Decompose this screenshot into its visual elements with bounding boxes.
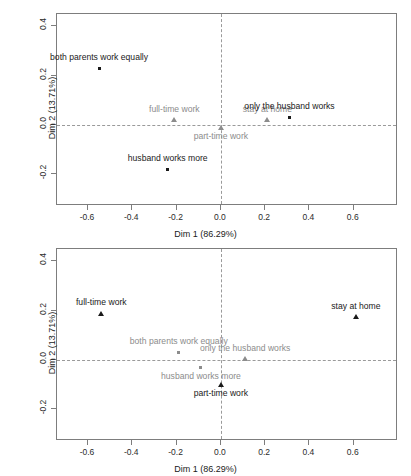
x-axis-tick-label: 0.0 bbox=[214, 447, 226, 457]
x-axis-tick-label: -0.4 bbox=[124, 447, 139, 457]
data-point-label: part-time work bbox=[194, 132, 248, 141]
plot-panel-bottom: full-time workstay at homeboth parents w… bbox=[56, 248, 397, 440]
data-point-label: stay at home bbox=[331, 302, 380, 311]
data-point-label: both parents work equally bbox=[50, 53, 148, 62]
x-axis-tick bbox=[220, 440, 221, 445]
y-axis-tick-label: 0.4 bbox=[38, 13, 48, 35]
triangle-marker-icon bbox=[264, 117, 270, 122]
x-axis-tick bbox=[264, 440, 265, 445]
data-point-label: husband works more bbox=[128, 154, 208, 163]
square-marker-icon bbox=[288, 116, 291, 119]
x-axis-tick bbox=[308, 440, 309, 445]
triangle-marker-icon bbox=[98, 311, 104, 316]
x-axis-tick-label: -0.4 bbox=[124, 212, 139, 222]
data-point-label: full-time work bbox=[76, 298, 127, 307]
x-axis-tick-label: 0.6 bbox=[347, 447, 359, 457]
x-axis-tick bbox=[87, 205, 88, 210]
zero-line-horizontal bbox=[57, 125, 396, 126]
square-marker-icon bbox=[199, 366, 202, 369]
y-axis-tick bbox=[51, 173, 56, 174]
x-axis-tick bbox=[87, 440, 88, 445]
data-point-label: only the husband works bbox=[200, 344, 290, 353]
triangle-marker-icon bbox=[171, 117, 177, 122]
y-axis-title-bottom: Dim 2 (13.71%) bbox=[47, 293, 57, 393]
x-axis-tick bbox=[131, 440, 132, 445]
x-axis-tick bbox=[353, 205, 354, 210]
x-axis-tick bbox=[131, 205, 132, 210]
triangle-marker-icon bbox=[353, 314, 359, 319]
x-axis-tick-label: -0.2 bbox=[168, 447, 183, 457]
plot-panel-top: both parents work equallyfull-time workp… bbox=[56, 13, 397, 205]
chart-figure-top: both parents work equallyfull-time workp… bbox=[0, 0, 411, 238]
x-axis-tick bbox=[353, 440, 354, 445]
square-marker-icon bbox=[98, 67, 101, 70]
x-axis-tick bbox=[220, 205, 221, 210]
square-marker-icon bbox=[166, 168, 169, 171]
x-axis-tick-label: -0.2 bbox=[168, 212, 183, 222]
y-axis-title-top: Dim 2 (13.71%) bbox=[47, 58, 57, 158]
x-axis-tick-label: 0.4 bbox=[303, 212, 315, 222]
x-axis-tick-label: 0.0 bbox=[214, 212, 226, 222]
zero-line-vertical bbox=[221, 14, 222, 204]
triangle-marker-icon bbox=[218, 382, 224, 387]
plot-area-bottom: full-time workstay at homeboth parents w… bbox=[57, 249, 396, 439]
data-point-label: full-time work bbox=[149, 105, 200, 114]
y-axis-tick-label: 0.4 bbox=[38, 248, 48, 270]
x-axis-tick-label: 0.2 bbox=[258, 447, 270, 457]
plot-area-top: both parents work equallyfull-time workp… bbox=[57, 14, 396, 204]
x-axis-tick-label: 0.6 bbox=[347, 212, 359, 222]
x-axis-tick-label: 0.2 bbox=[258, 212, 270, 222]
x-axis-tick bbox=[308, 205, 309, 210]
zero-line-horizontal bbox=[57, 360, 396, 361]
data-point-label: part-time work bbox=[194, 389, 248, 398]
data-point-label: only the husband works bbox=[244, 102, 334, 111]
y-axis-tick bbox=[51, 408, 56, 409]
x-axis-title-bottom: Dim 1 (86.29%) bbox=[0, 464, 411, 474]
x-axis-tick-label: -0.6 bbox=[80, 447, 95, 457]
data-point-label: husband works more bbox=[161, 372, 241, 381]
triangle-marker-icon bbox=[242, 356, 248, 361]
x-axis-tick bbox=[176, 440, 177, 445]
y-axis-tick-label: -0.2 bbox=[38, 396, 48, 418]
x-axis-tick bbox=[264, 205, 265, 210]
y-axis-tick bbox=[51, 260, 56, 261]
y-axis-tick bbox=[51, 25, 56, 26]
y-axis-tick-label: -0.2 bbox=[38, 161, 48, 183]
chart-figure-bottom: full-time workstay at homeboth parents w… bbox=[0, 238, 411, 476]
x-axis-tick-label: -0.6 bbox=[80, 212, 95, 222]
triangle-marker-icon bbox=[218, 125, 224, 130]
x-axis-tick-label: 0.4 bbox=[303, 447, 315, 457]
square-marker-icon bbox=[177, 351, 180, 354]
x-axis-tick bbox=[176, 205, 177, 210]
